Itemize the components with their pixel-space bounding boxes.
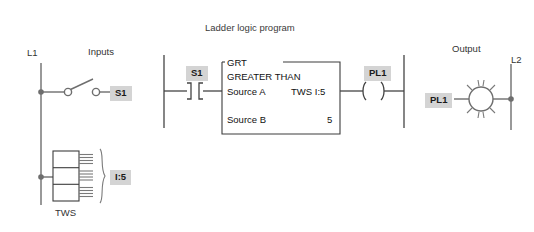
tws-wire-bundle-2	[79, 171, 93, 180]
pilot-light-bulb	[469, 87, 493, 111]
tws-grouping-brace	[100, 149, 105, 203]
ladder-logic-diagram: Ladder logic program Inputs Output L1 L2	[0, 0, 534, 232]
tws-wire-bundle-1	[79, 155, 93, 164]
rung-coil-tag-pl1[interactable]: PL1	[364, 66, 391, 81]
lamp-tag-pl1[interactable]: PL1	[425, 93, 452, 108]
switch-right-terminal	[92, 88, 99, 95]
switch-tag-s1[interactable]: S1	[110, 86, 132, 101]
rung-contact-tag-s1[interactable]: S1	[186, 66, 208, 81]
grt-instruction-name: GREATER THAN	[227, 72, 301, 82]
thumbwheel-label: TWS	[55, 208, 76, 218]
contact-s1-left-bar	[187, 83, 191, 99]
thumbwheel-address-tag[interactable]: I:5	[110, 170, 131, 185]
coil-pl1-left-arc	[363, 82, 366, 100]
grt-source-a-label: Source A	[227, 87, 266, 97]
grt-mnemonic: GRT	[227, 58, 247, 68]
pilot-light-rays	[467, 80, 495, 118]
tws-body	[53, 151, 79, 201]
coil-pl1-right-arc	[381, 82, 384, 100]
grt-source-b-value[interactable]: 5	[327, 115, 332, 125]
contact-s1-right-bar	[199, 83, 203, 99]
field-wiring-graphics	[0, 0, 534, 232]
switch-blade	[71, 79, 94, 90]
grt-source-a-value[interactable]: TWS I:5	[291, 87, 325, 97]
tws-wire-bundle-3	[79, 188, 93, 197]
grt-source-b-label: Source B	[227, 115, 266, 125]
